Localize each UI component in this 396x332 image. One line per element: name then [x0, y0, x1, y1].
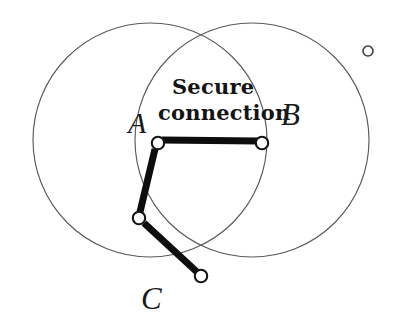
diagram-svg — [0, 0, 396, 332]
node-label-b: B — [281, 99, 300, 130]
node-b[interactable] — [256, 137, 268, 149]
link-a-b — [162, 140, 258, 141]
link-relay-c — [144, 223, 197, 272]
node-label-a: A — [128, 108, 146, 138]
node-isolated[interactable] — [363, 46, 373, 56]
node-a[interactable] — [152, 137, 164, 149]
figure-canvas: Secure connection A B C — [0, 0, 396, 332]
node-c[interactable] — [195, 270, 207, 282]
node-relay[interactable] — [133, 212, 145, 224]
secure-connection-caption-line-2: connection — [158, 102, 290, 123]
node-label-c: C — [141, 283, 162, 314]
secure-connection-caption-line-1: Secure — [172, 76, 254, 97]
